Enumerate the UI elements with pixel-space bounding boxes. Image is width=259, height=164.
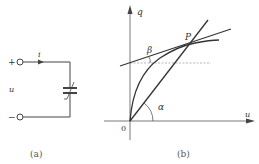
bottom-terminal [17,114,23,120]
minus-sign: − [8,112,16,122]
circuit-diagram [17,59,77,120]
current-label: i [38,50,41,59]
beta-label: β [146,45,152,55]
qu-graph [104,5,255,140]
plus-sign: + [8,57,16,67]
nonlinear-mark-icon [64,82,74,99]
caption-a: (a) [30,149,42,159]
beta-arc [149,57,150,63]
secant-line [130,20,208,121]
tangent-line [120,29,231,66]
diagram-canvas: i + − u (a) q u 0 P β α (b) [0,0,259,164]
current-arrow-icon [38,60,44,65]
top-terminal [17,59,23,65]
alpha-label: α [158,102,164,112]
caption-b: (b) [177,149,190,159]
voltage-label: u [9,85,14,94]
q-axis-label: q [137,7,143,17]
alpha-arc [144,103,153,121]
point-p-label: P [184,32,192,42]
u-axis-label: u [245,110,250,119]
u-axis-arrow-icon [246,119,255,124]
q-axis-arrow-icon [128,5,133,14]
origin-label: 0 [121,124,126,133]
characteristic-curve [130,40,219,121]
